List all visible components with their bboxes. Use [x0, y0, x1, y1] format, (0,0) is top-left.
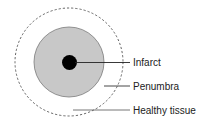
healthy-tissue-label: Healthy tissue	[133, 105, 196, 116]
infarct-label: Infarct	[133, 57, 161, 68]
penumbra-label: Penumbra	[133, 81, 180, 92]
infarct-core	[62, 55, 77, 70]
ischemia-zones-diagram: Infarct Penumbra Healthy tissue	[0, 0, 208, 124]
